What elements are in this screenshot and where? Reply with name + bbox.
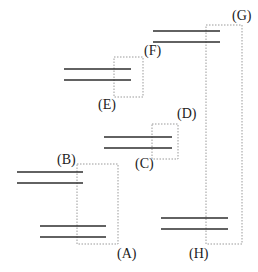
dotted-box-g-h bbox=[206, 25, 242, 244]
line-pair-c-d bbox=[104, 137, 172, 148]
label-a: (A) bbox=[117, 246, 137, 262]
line-pair-e-f bbox=[64, 69, 131, 80]
label-g: (G) bbox=[232, 8, 252, 24]
label-d: (D) bbox=[177, 106, 197, 122]
label-b: (B) bbox=[57, 152, 76, 168]
line-pair-a bbox=[40, 226, 106, 237]
dotted-box-c-d bbox=[152, 124, 178, 159]
dotted-box-a-b bbox=[77, 164, 118, 244]
line-pair-b bbox=[17, 172, 83, 183]
diagram-canvas: (G) (F) (E) (D) (C) (B) (A) (H) bbox=[0, 0, 258, 272]
label-h: (H) bbox=[189, 246, 209, 262]
line-pair-h bbox=[161, 218, 228, 229]
line-pair-g bbox=[153, 31, 220, 42]
label-c: (C) bbox=[135, 156, 154, 172]
label-f: (F) bbox=[144, 43, 161, 59]
label-e: (E) bbox=[98, 97, 116, 113]
dotted-box-e-f bbox=[114, 57, 143, 97]
